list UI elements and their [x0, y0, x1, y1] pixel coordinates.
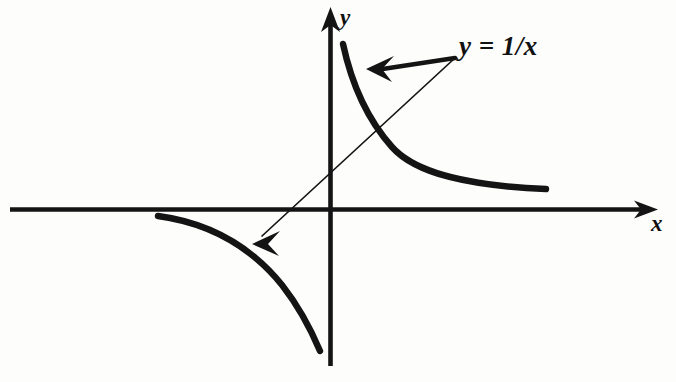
equation-annotation-label: y = 1/x: [459, 33, 538, 60]
curve-lower-left-branch: [158, 216, 320, 351]
figure-canvas: y x y = 1/x: [0, 0, 676, 382]
hyperbola-plot: [0, 0, 676, 382]
x-axis-label: x: [651, 212, 663, 235]
y-axis-label: y: [340, 6, 350, 29]
leader-arrowhead-lower: [252, 231, 280, 256]
